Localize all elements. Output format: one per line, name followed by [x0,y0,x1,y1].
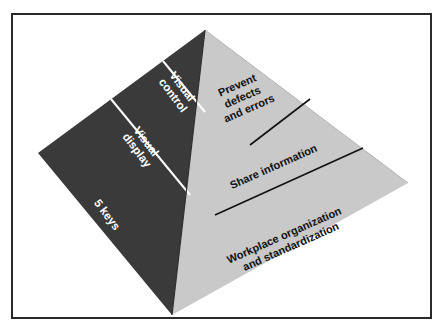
pyramid-right-face [172,30,408,315]
figure-root: Visual control Visual display 5 keys Pre… [0,0,446,333]
right-face-fill [172,30,408,315]
pyramid-diagram: Visual control Visual display 5 keys Pre… [0,0,446,333]
